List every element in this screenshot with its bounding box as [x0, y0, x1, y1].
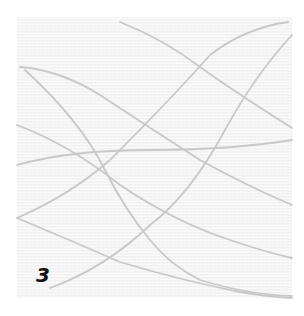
curve-fork — [25, 70, 292, 296]
curve-a — [120, 22, 292, 128]
panel-number-label: 3 — [36, 263, 50, 287]
curve-d — [17, 22, 288, 218]
curve-f — [17, 218, 292, 298]
